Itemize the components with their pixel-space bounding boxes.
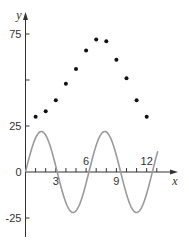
data-point bbox=[44, 109, 48, 113]
chart: 3691275250-25xy bbox=[0, 0, 189, 246]
x-tick-label: 9 bbox=[113, 175, 119, 187]
labels: 3691275250-25xy bbox=[6, 8, 179, 224]
data-point bbox=[125, 76, 129, 80]
data-point bbox=[94, 38, 98, 42]
data-point bbox=[84, 49, 88, 53]
data-point bbox=[145, 115, 149, 119]
ticks bbox=[26, 34, 157, 218]
y-tick-label: -25 bbox=[6, 212, 22, 224]
scatter-points bbox=[34, 38, 149, 119]
data-point bbox=[114, 58, 118, 62]
data-point bbox=[135, 98, 139, 102]
data-point bbox=[34, 115, 38, 119]
data-point bbox=[74, 67, 78, 71]
y-tick-label: 75 bbox=[9, 28, 21, 40]
x-axis-label: x bbox=[171, 174, 178, 188]
y-tick-label: 0 bbox=[15, 166, 21, 178]
x-tick-label: 12 bbox=[141, 155, 153, 167]
data-point bbox=[104, 39, 108, 43]
data-point bbox=[54, 98, 58, 102]
y-axis-arrow-icon bbox=[23, 12, 28, 20]
y-axis-label: y bbox=[15, 8, 22, 22]
axes bbox=[23, 12, 178, 237]
x-tick-label: 6 bbox=[83, 155, 89, 167]
data-point bbox=[64, 82, 68, 86]
y-tick-label: 25 bbox=[9, 120, 21, 132]
x-tick-label: 3 bbox=[53, 175, 59, 187]
